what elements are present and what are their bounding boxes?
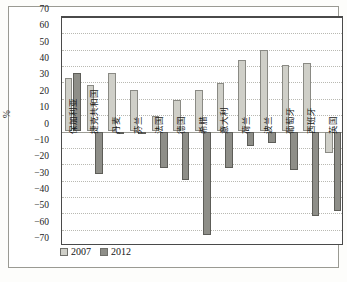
category-label-荷兰: 荷兰 [242,116,251,134]
bar-2012-德国 [182,132,190,180]
gridline-60 [62,33,342,34]
chart-legend: 20072012 [60,246,131,257]
gridline-70 [62,17,342,18]
y-axis-title: % [2,110,12,118]
legend-swatch-2012 [100,248,108,256]
plot-area: 保加利亚捷克共和国丹麦芬兰法国德国希腊意大利荷兰波兰葡萄牙西班牙英国 [61,16,343,245]
category-label-芬兰: 芬兰 [134,116,143,134]
category-label-英国: 英国 [329,116,338,134]
category-label-意大利: 意大利 [220,107,229,134]
gridline-50 [62,50,342,51]
category-label-丹麦: 丹麦 [112,116,121,134]
legend-label-2007: 2007 [71,246,91,257]
legend-item-2007[interactable]: 2007 [60,246,91,257]
category-label-葡萄牙: 葡萄牙 [286,107,295,134]
category-label-法国: 法国 [155,116,164,134]
gridline--20 [62,164,342,165]
gridline--60 [62,230,342,231]
gridline--30 [62,181,342,182]
gridline-40 [62,66,342,67]
category-label-保加利亚: 保加利亚 [69,98,78,134]
chart-frame: 保加利亚捷克共和国丹麦芬兰法国德国希腊意大利荷兰波兰葡萄牙西班牙英国 [8,6,339,268]
bar-2012-法国 [160,132,168,169]
bar-2012-捷克共和国 [95,132,103,175]
gridline--40 [62,197,342,198]
gridline--50 [62,213,342,214]
bar-2007-英国 [325,132,333,153]
category-label-希腊: 希腊 [199,116,208,134]
legend-label-2012: 2012 [111,246,131,257]
legend-item-2012[interactable]: 2012 [100,246,131,257]
gridline-30 [62,82,342,83]
bar-2012-希腊 [203,132,211,235]
category-label-波兰: 波兰 [264,116,273,134]
category-label-捷克共和国: 捷克共和国 [90,89,99,134]
category-label-西班牙: 西班牙 [307,107,316,134]
figure: 保加利亚捷克共和国丹麦芬兰法国德国希腊意大利荷兰波兰葡萄牙西班牙英国 70605… [0,0,347,282]
legend-swatch-2007 [60,248,68,256]
bar-2012-西班牙 [312,132,320,216]
bar-2012-意大利 [225,132,233,169]
category-label-德国: 德国 [177,116,186,134]
gridline--10 [62,148,342,149]
bar-2012-葡萄牙 [290,132,298,171]
bar-2012-英国 [334,132,342,212]
